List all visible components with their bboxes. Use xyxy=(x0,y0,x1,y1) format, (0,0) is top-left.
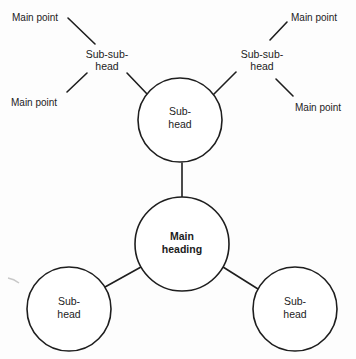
label-subsub-right-line1: Sub-sub- xyxy=(241,48,284,60)
edge-point-top-right xyxy=(270,22,287,40)
label-point-top-left: Main point xyxy=(12,12,58,23)
label-point-bottom-left: Main point xyxy=(11,97,57,108)
label-point-top-right: Main point xyxy=(291,12,337,23)
label-subsub-left-line2: head xyxy=(95,60,119,72)
label-main-heading-line1: Main xyxy=(170,230,194,242)
label-sub-bottom-right-line2: head xyxy=(283,308,307,320)
label-sub-top-line1: Sub- xyxy=(169,105,192,117)
edge-point-bottom-left xyxy=(67,73,87,92)
edge-subsub-left-to-sub-top xyxy=(127,73,148,95)
edge-subsub-right-to-sub-top xyxy=(213,72,236,95)
diagram-svg: Main point Main point Main point Main po… xyxy=(0,0,356,359)
label-main-heading-line2: heading xyxy=(162,243,202,255)
edge-point-top-left xyxy=(68,18,95,44)
smudge-mark xyxy=(8,278,19,283)
label-subsub-left-line1: Sub-sub- xyxy=(86,48,129,60)
mind-map-diagram: Main point Main point Main point Main po… xyxy=(0,0,356,359)
label-sub-bottom-left-line2: head xyxy=(57,308,81,320)
edge-main-to-sub-bottom-left xyxy=(105,267,141,287)
label-point-bottom-right: Main point xyxy=(295,102,341,113)
label-sub-bottom-left-line1: Sub- xyxy=(58,295,81,307)
edge-main-to-sub-bottom-right xyxy=(223,267,258,289)
edge-point-bottom-right xyxy=(276,79,293,96)
label-sub-top-line2: head xyxy=(168,118,192,130)
label-subsub-right-line2: head xyxy=(250,60,274,72)
label-sub-bottom-right-line1: Sub- xyxy=(284,295,307,307)
